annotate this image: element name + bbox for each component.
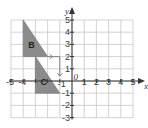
x-tick-label: 3	[106, 77, 111, 87]
y-tick-label: -3	[62, 113, 70, 123]
shape-label-b: B	[28, 40, 35, 50]
x-tick-label: 1	[82, 77, 87, 87]
x-tick-label: 2	[94, 77, 99, 87]
x-tick-label: 5	[131, 77, 136, 87]
x-tick-label: -5	[6, 77, 14, 87]
y-axis-arrowhead-icon	[69, 7, 75, 14]
y-tick-label: 1	[65, 64, 70, 74]
y-tick-label: 3	[65, 39, 70, 49]
origin-label: 0	[74, 72, 79, 82]
axes	[9, 7, 145, 120]
y-tick-label: -1	[62, 88, 70, 98]
y-axis-label: y	[64, 6, 69, 16]
x-tick-label: 4	[118, 77, 123, 87]
y-tick-label: 4	[65, 27, 70, 37]
translation-path	[48, 57, 60, 77]
y-tick-label: 2	[65, 52, 70, 62]
shape-label-c: C	[41, 77, 48, 87]
y-tick-label: -2	[62, 100, 70, 110]
coordinate-plane: BC -5-412345-154321-1-2-30xy	[0, 0, 148, 128]
y-tick-label: 5	[65, 15, 70, 25]
x-tick-label: -4	[18, 77, 26, 87]
translation-arrow	[48, 54, 63, 76]
x-axis-label: x	[143, 81, 148, 91]
